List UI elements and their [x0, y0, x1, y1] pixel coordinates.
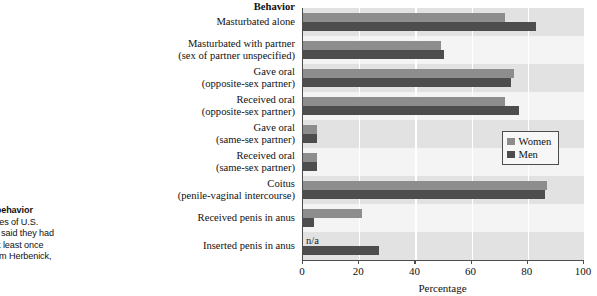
category-axis-labels: Behavior Masturbated aloneMasturbated wi…: [118, 8, 299, 260]
gridline: [472, 8, 473, 260]
category-label-line: Masturbated alone: [114, 16, 295, 28]
x-axis-line: [302, 260, 583, 261]
legend-item-women: Women: [507, 135, 551, 148]
category-label-line: (same-sex partner): [114, 162, 295, 174]
x-axis-tick: [583, 260, 584, 264]
category-label-line: Masturbated with partner: [114, 38, 295, 50]
legend-label-women: Women: [519, 136, 552, 147]
bar-men: [303, 190, 545, 199]
bar-men: [303, 22, 536, 31]
legend-label-men: Men: [519, 149, 538, 160]
category-label: Coitus(penile-vaginal intercourse): [114, 178, 295, 201]
bar-men: [303, 162, 317, 171]
bar-women: [303, 41, 441, 50]
bar-women: [303, 13, 505, 22]
category-label-line: Received oral: [114, 150, 295, 162]
axis-title: Behavior: [114, 1, 295, 12]
category-label-line: Gave oral: [114, 122, 295, 134]
category-label: Inserted penis in anus: [114, 240, 295, 252]
bar-women: [303, 181, 547, 190]
x-axis-tick: [414, 260, 415, 264]
bar-women: [303, 97, 505, 106]
category-label-line: Coitus: [114, 178, 295, 190]
x-axis-tick-label: 100: [568, 265, 597, 277]
x-axis-tick-label: 0: [287, 265, 317, 277]
legend-swatch-women-icon: [507, 138, 515, 146]
category-label-line: (sex of partner unspecified): [114, 50, 295, 62]
category-label-line: Received penis in anus: [114, 212, 295, 224]
na-annotation: n/a: [306, 236, 319, 246]
bar-men: [303, 134, 317, 143]
category-label: Masturbated with partner(sex of partner …: [114, 38, 295, 61]
x-axis-tick: [302, 260, 303, 264]
category-label-line: Received oral: [114, 94, 295, 106]
category-label: Received oral(opposite-sex partner): [114, 94, 295, 117]
caption-line-6: 2010.): [0, 263, 173, 275]
category-label: Gave oral(opposite-sex partner): [114, 66, 295, 89]
category-label: Received oral(same-sex partner): [114, 150, 295, 173]
category-label: Gave oral(same-sex partner): [114, 122, 295, 145]
category-label-line: Gave oral: [114, 66, 295, 78]
x-axis-tick-label: 40: [399, 265, 429, 277]
bar-men: [303, 106, 519, 115]
category-label-line: (opposite-sex partner): [114, 106, 295, 118]
bar-women: [303, 69, 514, 78]
x-axis-tick: [527, 260, 528, 264]
x-axis-tick-label: 20: [343, 265, 373, 277]
bar-men: [303, 218, 314, 227]
category-label-line: (opposite-sex partner): [114, 78, 295, 90]
category-label-line: Inserted penis in anus: [114, 240, 295, 252]
x-axis-tick: [471, 260, 472, 264]
x-axis-tick-label: 80: [512, 265, 542, 277]
legend-swatch-men-icon: [507, 151, 515, 159]
x-axis-tick: [358, 260, 359, 264]
legend-item-men: Men: [507, 148, 551, 161]
category-label-line: (penile-vaginal intercourse): [114, 190, 295, 202]
bar-men: [303, 78, 511, 87]
bar-men: [303, 50, 444, 59]
gridline: [584, 8, 585, 260]
bar-women: [303, 209, 362, 218]
bar-women: [303, 125, 317, 134]
chart-legend: Women Men: [502, 131, 559, 165]
category-label: Masturbated alone: [114, 16, 295, 28]
bar-chart: n/a Percentage Women Men 020406080100: [302, 8, 583, 260]
category-label: Received penis in anus: [114, 212, 295, 224]
bar-men: [303, 246, 379, 255]
x-axis-label: Percentage: [302, 282, 583, 294]
category-label-line: (same-sex partner): [114, 134, 295, 146]
x-axis-tick-label: 60: [456, 265, 486, 277]
bar-women: [303, 153, 317, 162]
